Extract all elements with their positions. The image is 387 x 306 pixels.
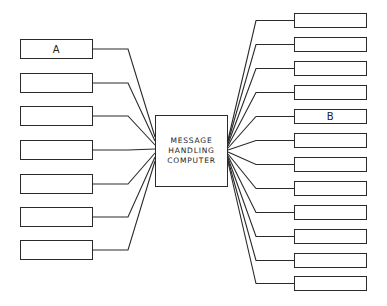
- terminal-a: A: [20, 39, 93, 59]
- terminal-left: [20, 207, 93, 227]
- terminal-right: [294, 253, 367, 268]
- connection-line: [93, 49, 155, 137]
- connection-line: [93, 153, 155, 184]
- terminal-b: B: [294, 109, 367, 124]
- terminal-right: [294, 205, 367, 220]
- terminal-right: [294, 85, 367, 100]
- connection-line: [93, 83, 155, 141]
- connection-line: [93, 157, 155, 217]
- center-line-1: MESSAGE: [170, 136, 212, 146]
- terminal-left: [20, 106, 93, 126]
- connection-line: [228, 154, 294, 189]
- terminal-left: [20, 73, 93, 93]
- connection-line: [228, 93, 294, 147]
- terminal-left: [20, 174, 93, 194]
- terminal-left: [20, 140, 93, 160]
- connection-line: [228, 141, 294, 151]
- terminal-right: [294, 276, 367, 291]
- terminal-right: [294, 229, 367, 244]
- center-line-3: COMPUTER: [167, 156, 216, 166]
- terminal-left: [20, 240, 93, 260]
- terminal-right: [294, 157, 367, 172]
- terminal-right: [294, 13, 367, 28]
- connection-line: [228, 21, 294, 141]
- message-handling-computer: MESSAGE HANDLING COMPUTER: [155, 115, 228, 187]
- terminal-right: [294, 133, 367, 148]
- terminal-right: [294, 181, 367, 196]
- terminal-right: [294, 61, 367, 76]
- connection-line: [228, 152, 294, 165]
- terminal-right: [294, 37, 367, 52]
- connection-line: [228, 162, 294, 284]
- connection-line: [228, 117, 294, 149]
- connection-line: [93, 149, 155, 150]
- center-line-2: HANDLING: [168, 146, 214, 156]
- connection-line: [93, 161, 155, 250]
